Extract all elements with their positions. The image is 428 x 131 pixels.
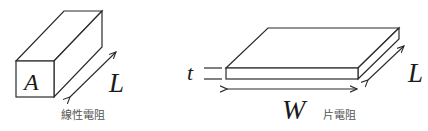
resistor-diagram: A L 線性電阻 t W L 片電阻 [0,0,428,131]
plate-front-face [226,68,358,79]
line-resistor-caption: 線性電阻 [61,108,105,122]
bar-length-label: L [108,68,124,98]
thickness-label: t [187,60,194,85]
sheet-resistor-caption: 片電阻 [323,109,356,122]
sheet-resistor: t W L 片電阻 [187,28,423,125]
cross-section-label: A [22,69,39,95]
width-label: W [282,94,308,125]
line-resistor: A L 線性電阻 [16,11,124,122]
plate-length-label: L [407,58,423,88]
